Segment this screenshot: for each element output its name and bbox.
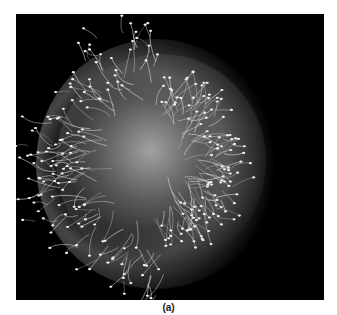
sperm-head bbox=[82, 27, 85, 29]
sperm-head bbox=[192, 71, 195, 73]
sperm-head bbox=[46, 116, 49, 118]
sperm-head bbox=[180, 240, 183, 242]
sperm-head bbox=[141, 274, 144, 276]
sperm-head bbox=[27, 177, 30, 179]
sperm-head bbox=[144, 24, 147, 26]
sperm-head bbox=[129, 282, 132, 284]
sperm-head bbox=[75, 244, 78, 246]
sperm-tail bbox=[84, 28, 97, 38]
sperm-head bbox=[84, 50, 87, 52]
sperm-head bbox=[83, 91, 86, 93]
sperm-head bbox=[69, 167, 72, 169]
sperm-head bbox=[232, 218, 235, 220]
sperm-tail bbox=[222, 191, 235, 203]
sperm-head bbox=[61, 139, 64, 141]
sperm-tail bbox=[153, 218, 169, 238]
sperm-head bbox=[162, 85, 165, 87]
sperm-tail bbox=[209, 117, 224, 126]
sperm-head bbox=[69, 82, 72, 84]
sperm-tails bbox=[16, 14, 324, 300]
sperm-head bbox=[227, 169, 230, 171]
sperm-head bbox=[106, 89, 109, 91]
sperm-head bbox=[134, 31, 137, 33]
sperm-head bbox=[93, 223, 96, 225]
sperm-head bbox=[83, 204, 86, 206]
sperm-tail bbox=[198, 180, 203, 197]
sperm-head bbox=[123, 247, 126, 249]
sperm-tail bbox=[203, 190, 215, 195]
sperm-head bbox=[203, 135, 206, 137]
sperm-tail bbox=[34, 202, 48, 205]
sperm-head bbox=[99, 53, 102, 55]
sperm-head bbox=[51, 160, 54, 162]
sperm-tail bbox=[90, 246, 109, 269]
sperm-head bbox=[73, 206, 76, 208]
sperm-head bbox=[169, 235, 172, 237]
sperm-tail bbox=[205, 196, 213, 214]
sperm-head bbox=[156, 53, 159, 55]
sperm-tail bbox=[77, 235, 89, 246]
sperm-tail bbox=[89, 227, 96, 256]
sperm-tail bbox=[170, 206, 171, 231]
sperm-tail bbox=[121, 16, 124, 33]
sperm-head bbox=[88, 44, 91, 46]
sperm-head bbox=[129, 22, 132, 24]
sperm-head bbox=[47, 147, 50, 149]
sperm-tail bbox=[103, 211, 113, 242]
sperm-tail bbox=[150, 31, 156, 62]
sperm-head bbox=[21, 219, 24, 221]
sperm-head bbox=[203, 112, 206, 114]
sperm-head bbox=[71, 99, 74, 101]
sperm-head bbox=[88, 48, 91, 50]
sperm-head bbox=[114, 74, 117, 76]
sperm-head bbox=[110, 57, 113, 59]
sperm-head bbox=[57, 204, 60, 206]
sperm-head bbox=[123, 293, 126, 295]
sperm-head bbox=[55, 164, 58, 166]
sperm-tail bbox=[51, 162, 68, 166]
sperm-tail bbox=[177, 221, 181, 233]
sperm-tail bbox=[111, 58, 122, 74]
sperm-head bbox=[227, 185, 230, 187]
sperm-head bbox=[209, 181, 212, 183]
sperm-head bbox=[236, 172, 239, 174]
sperm-head bbox=[179, 202, 182, 204]
sperm-head bbox=[26, 155, 29, 157]
sperm-head bbox=[106, 82, 109, 84]
sperm-head bbox=[32, 162, 35, 164]
sperm-tail bbox=[204, 215, 211, 244]
sperm-head bbox=[216, 100, 219, 102]
sperm-head bbox=[186, 229, 189, 231]
sperm-head bbox=[208, 93, 211, 95]
sperm-head bbox=[74, 208, 77, 210]
sperm-tail bbox=[122, 85, 143, 100]
sperm-head bbox=[180, 233, 183, 235]
sperm-head bbox=[48, 247, 51, 249]
sperm-tail bbox=[87, 107, 110, 116]
sperm-head bbox=[202, 95, 205, 97]
sperm-head bbox=[42, 217, 45, 219]
sperm-head bbox=[111, 258, 114, 260]
sperm-head bbox=[149, 297, 152, 299]
sperm-tail bbox=[206, 206, 219, 216]
sperm-head bbox=[37, 194, 40, 196]
sperm-head bbox=[80, 226, 83, 228]
sperm-head bbox=[86, 106, 89, 108]
sperm-head bbox=[34, 127, 37, 129]
sperm-tail bbox=[39, 176, 55, 179]
sperm-head bbox=[37, 210, 40, 212]
sperm-head bbox=[215, 204, 218, 206]
sperm-head bbox=[51, 224, 54, 226]
sperm-head bbox=[201, 238, 204, 240]
sperm-head bbox=[79, 100, 82, 102]
sperm-tail bbox=[181, 124, 200, 134]
sperm-head bbox=[170, 89, 173, 91]
sperm-head bbox=[66, 132, 69, 134]
sperm-head bbox=[31, 129, 34, 131]
sperm-head bbox=[199, 123, 202, 125]
sperm-head bbox=[229, 149, 232, 151]
sperm-head bbox=[69, 152, 72, 154]
sperm-head bbox=[192, 217, 195, 219]
sperm-head bbox=[21, 115, 24, 117]
sperm-head bbox=[209, 135, 212, 137]
